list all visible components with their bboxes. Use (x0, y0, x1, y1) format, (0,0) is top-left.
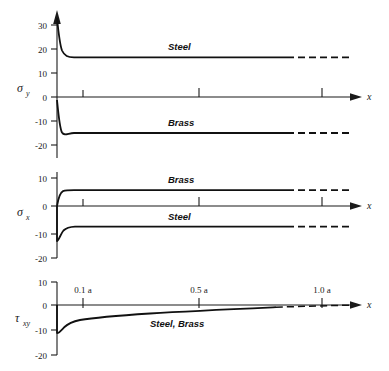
panel1-curve-label-brass: Brass (168, 117, 194, 128)
panel3-x-axis-label: x (366, 299, 372, 310)
panel3-ytick-label-0: 0 (43, 301, 48, 311)
panel1-x-axis-arrow-icon (350, 93, 362, 100)
panel3-x-axis-arrow-icon (350, 301, 362, 308)
panel1-ytick-label-neg10: -10 (35, 117, 47, 127)
panel1-curve-label-steel: Steel (168, 41, 191, 52)
panel3-ytick-label-neg10: -10 (35, 326, 47, 336)
panel3-axis-title: τ (15, 311, 20, 325)
stress-distribution-figure: x 30 20 10 0 -10 -20 σ y Stee (0, 0, 389, 371)
panel3-xtick-label-0p1: 0.1 a (74, 285, 92, 295)
panel2-ytick-label-10: 10 (38, 174, 48, 184)
panel3-ytick-label-neg20: -20 (35, 351, 47, 361)
panel1-ytick-label-10: 10 (38, 69, 48, 79)
panel1-x-axis-label: x (366, 91, 372, 102)
panel1-axis-title: σ (17, 81, 24, 95)
panel2-axis-title: σ (17, 205, 24, 219)
panel2-curve-label-brass: Brass (168, 174, 194, 185)
panel2-x-axis-arrow-icon (350, 202, 362, 209)
panel3-xtick-label-1p0: 1.0 a (313, 285, 331, 295)
panel-sigma-y: x 30 20 10 0 -10 -20 σ y Stee (17, 10, 372, 158)
panel2-ytick-label-neg20: -20 (35, 254, 47, 264)
panel2-x-axis-label: x (366, 200, 372, 211)
panel3-ytick-label-10: 10 (38, 278, 48, 288)
panel1-ytick-label-0: 0 (43, 93, 48, 103)
panel2-ytick-label-neg10: -10 (35, 230, 47, 240)
chart-svg: x 30 20 10 0 -10 -20 σ y Stee (0, 0, 389, 371)
panel3-axis-title-subscript: xy (22, 319, 31, 328)
panel1-ytick-label-30: 30 (38, 21, 48, 31)
panel1-ytick-label-neg20: -20 (35, 141, 47, 151)
panel3-xtick-label-0p5: 0.5 a (190, 285, 208, 295)
panel2-ytick-label-0: 0 (43, 202, 48, 212)
panel-tau-xy: x 10 0 -10 -20 τ xy 0.1 a 0.5 a 1.0 a St… (15, 278, 372, 361)
panel2-curve-brass (57, 190, 287, 206)
panel2-curve-label-steel: Steel (168, 211, 191, 222)
panel3-curve-label-steel-brass: Steel, Brass (150, 318, 204, 329)
panel2-axis-title-subscript: x (25, 213, 30, 222)
panel-sigma-x: x 10 0 -10 -20 σ x Brass Steel (17, 172, 372, 264)
panel1-ytick-label-20: 20 (38, 45, 48, 55)
panel1-axis-title-subscript: y (25, 89, 30, 98)
